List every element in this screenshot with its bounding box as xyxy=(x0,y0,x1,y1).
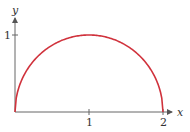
semicircle-curve xyxy=(15,35,163,112)
x-tick-label-1: 1 xyxy=(86,116,93,129)
x-axis-label: x xyxy=(177,106,184,119)
semicircle-chart: y x 1 1 2 xyxy=(0,0,190,132)
y-axis-label: y xyxy=(11,4,19,17)
y-tick-label-1: 1 xyxy=(4,29,11,42)
x-tick-label-2: 2 xyxy=(160,116,167,129)
